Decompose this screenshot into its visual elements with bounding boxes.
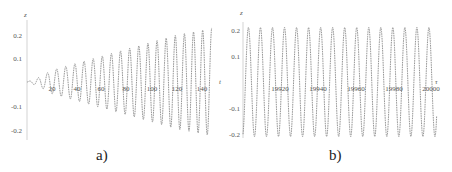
chart-panel-b: z τ 0.2 0.1 -0.1 -0.2 19920 19940 19960 … — [226, 0, 452, 172]
x-tick-b-3: 19980 — [385, 85, 403, 93]
x-tick-b-1: 19940 — [309, 85, 327, 93]
chart-panel-a: z t 0.2 0.1 -0.1 -0.2 20 40 60 80 100 12… — [0, 0, 226, 172]
x-tick-a-5: 120 — [172, 85, 183, 93]
x-axis-label-a: t — [219, 78, 222, 86]
x-tick-a-4: 100 — [147, 85, 158, 93]
y-axis-label-b: z — [239, 9, 243, 17]
y-axis-label-a: z — [23, 11, 27, 19]
x-tick-a-2: 60 — [98, 85, 106, 93]
y-tick-b-0: 0.2 — [231, 27, 240, 35]
y-tick-b-1: 0.1 — [231, 53, 240, 61]
y-tick-b-3: -0.2 — [229, 131, 241, 139]
plot-a: z t 0.2 0.1 -0.1 -0.2 20 40 60 80 100 12… — [0, 0, 226, 145]
x-tick-b-0: 19920 — [271, 85, 289, 93]
x-tick-a-3: 80 — [123, 85, 131, 93]
y-tick-a-3: -0.2 — [11, 127, 23, 135]
y-tick-a-1: 0.1 — [13, 55, 22, 63]
x-tick-a-1: 40 — [74, 85, 82, 93]
curve-a — [27, 28, 212, 135]
x-tick-b-4: 20000 — [422, 85, 440, 93]
x-tick-b-2: 19960 — [347, 85, 365, 93]
y-tick-b-2: -0.1 — [229, 105, 241, 113]
caption-b: b) — [329, 147, 342, 164]
caption-a: a) — [96, 147, 108, 164]
curve-b — [243, 27, 437, 136]
y-tick-a-2: -0.1 — [11, 103, 23, 111]
x-tick-a-0: 20 — [49, 85, 57, 93]
plot-b: z τ 0.2 0.1 -0.1 -0.2 19920 19940 19960 … — [226, 0, 452, 145]
x-tick-a-6: 140 — [197, 85, 208, 93]
y-tick-a-0: 0.2 — [13, 32, 22, 40]
